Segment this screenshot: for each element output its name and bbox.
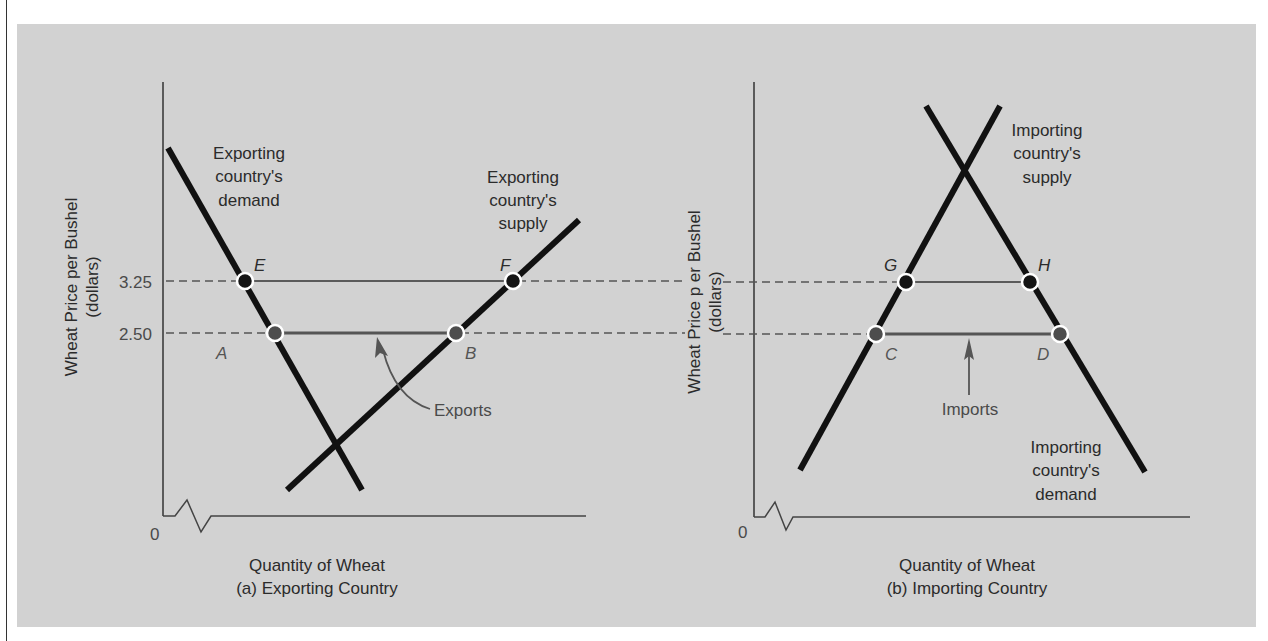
point-D (1052, 326, 1068, 342)
importing-demand-label-2: country's (1032, 461, 1100, 480)
exporting-supply-curve (287, 220, 579, 490)
importing-supply-label-2: country's (1013, 144, 1081, 163)
caption-b-line1: Quantity of Wheat (899, 556, 1035, 575)
importing-supply-label-3: supply (1022, 168, 1072, 187)
ylabel-a-line2: (dollars) (83, 256, 102, 317)
origin-a: 0 (150, 525, 159, 544)
point-H (1022, 274, 1038, 290)
label-A: A (215, 344, 227, 363)
trade-figure: E F A B Exporting country's demand Expor… (0, 0, 1268, 641)
exporting-demand-label-2: country's (215, 167, 283, 186)
exporting-supply-label-2: country's (489, 191, 557, 210)
label-E: E (254, 256, 266, 275)
exports-arrow-head-icon (375, 337, 388, 358)
label-C: C (885, 345, 898, 364)
exporting-supply-label-1: Exporting (487, 168, 559, 187)
tick-325: 3.25 (119, 273, 152, 292)
imports-label: Imports (942, 400, 999, 419)
panel-exporting: E F A B Exporting country's demand Expor… (62, 82, 685, 598)
label-B: B (465, 344, 476, 363)
importing-demand-label-1: Importing (1031, 438, 1102, 457)
tick-250: 2.50 (119, 325, 152, 344)
exports-label: Exports (434, 401, 492, 420)
ylabel-b-line1: Wheat Price p er Bushel (685, 210, 704, 393)
origin-b: 0 (738, 523, 747, 542)
point-G (898, 274, 914, 290)
exporting-supply-label-3: supply (498, 214, 548, 233)
x-axis-break-a (163, 500, 586, 532)
point-B (448, 325, 464, 341)
label-G: G (884, 256, 897, 275)
caption-b-line2: (b) Importing Country (887, 579, 1048, 598)
exporting-demand-label-1: Exporting (213, 144, 285, 163)
point-F (505, 273, 521, 289)
importing-supply-label-1: Importing (1012, 121, 1083, 140)
importing-demand-label-3: demand (1035, 485, 1096, 504)
x-axis-break-b (754, 502, 1190, 530)
point-A (267, 325, 283, 341)
label-F: F (500, 256, 512, 275)
ylabel-a-line1: Wheat Price per Bushel (62, 198, 81, 377)
caption-a-line2: (a) Exporting Country (236, 579, 398, 598)
ylabel-b-line2: (dollars) (706, 271, 725, 332)
label-D: D (1037, 345, 1049, 364)
point-E (237, 273, 253, 289)
panel-importing: G H C D Importing country's supply Impor… (685, 82, 1190, 598)
caption-a-line1: Quantity of Wheat (249, 556, 385, 575)
label-H: H (1038, 256, 1051, 275)
point-C (868, 326, 884, 342)
exporting-demand-label-3: demand (218, 191, 279, 210)
